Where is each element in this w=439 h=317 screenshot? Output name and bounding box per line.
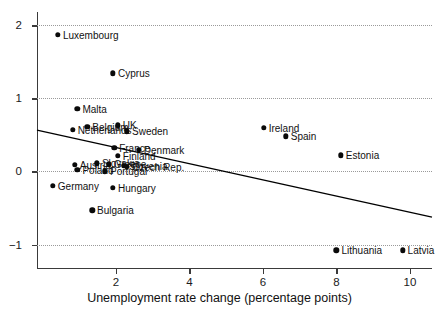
data-point-label: Bulgaria <box>97 205 134 216</box>
data-point-label: Hungary <box>118 182 156 193</box>
data-point-label: Latvia <box>408 245 435 256</box>
x-tick-label: 4 <box>186 276 192 288</box>
x-tick-mark <box>263 269 264 274</box>
x-tick-label: 8 <box>333 276 339 288</box>
y-tick-mark <box>32 25 37 26</box>
y-tick-label: 1 <box>16 92 22 104</box>
data-point-label: Sweden <box>132 126 168 137</box>
y-tick-label: −1 <box>9 239 22 251</box>
x-tick-mark <box>336 269 337 274</box>
y-tick-mark <box>32 245 37 246</box>
data-point[interactable] <box>55 32 60 37</box>
x-tick-mark <box>189 269 190 274</box>
data-point[interactable] <box>111 145 116 150</box>
data-point[interactable] <box>110 185 115 190</box>
data-point[interactable] <box>400 248 405 253</box>
x-tick-mark <box>410 269 411 274</box>
scatter-chart: LuxembourgCyprusMaltaNetherlandsBelgiumU… <box>0 0 439 317</box>
data-point[interactable] <box>89 208 94 213</box>
data-point-label: Luxembourg <box>63 29 119 40</box>
data-point-label: Spain <box>291 131 317 142</box>
data-point[interactable] <box>50 183 55 188</box>
y-tick-label: 0 <box>16 165 22 177</box>
x-tick-group: 246810 <box>37 269 432 293</box>
data-point[interactable] <box>261 125 266 130</box>
data-point-label: Estonia <box>346 150 379 161</box>
data-point-label: Germany <box>58 181 99 192</box>
x-tick-label: 6 <box>260 276 266 288</box>
data-point[interactable] <box>110 71 115 76</box>
data-point[interactable] <box>334 248 339 253</box>
data-point-label: Lithuania <box>341 245 382 256</box>
data-point[interactable] <box>283 134 288 139</box>
y-tick-mark <box>32 171 37 172</box>
regression-line <box>37 12 432 268</box>
data-point[interactable] <box>75 106 80 111</box>
data-point[interactable] <box>338 153 343 158</box>
data-point[interactable] <box>70 127 75 132</box>
data-point-label: Cyprus <box>118 68 150 79</box>
x-tick-mark <box>116 269 117 274</box>
data-point-label: Portugal <box>110 166 147 177</box>
gridline-y <box>37 25 432 26</box>
x-tick-label: 2 <box>113 276 119 288</box>
x-axis-title: Unemployment rate change (percentage poi… <box>0 291 439 305</box>
y-tick-label: 2 <box>16 19 22 31</box>
plot-area: LuxembourgCyprusMaltaNetherlandsBelgiumU… <box>37 12 432 268</box>
gridline-y <box>37 98 432 99</box>
y-tick-mark <box>32 98 37 99</box>
data-point-label: Malta <box>82 103 106 114</box>
x-tick-label: 10 <box>404 276 417 288</box>
